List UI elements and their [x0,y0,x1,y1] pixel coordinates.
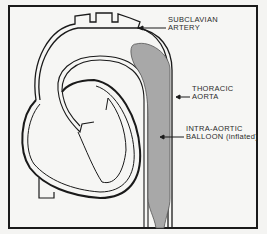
label-line: BALLOON (inflated) [186,133,258,141]
intra-aortic-balloon-label: INTRA-AORTIC BALLOON (inflated) [186,125,258,141]
thoracic-aorta-label: THORACIC AORTA [192,85,234,101]
heart-ventricle-inner [28,86,134,192]
arrow-icon [139,26,143,30]
label-line: ARTERY [168,24,218,32]
vessel-stub [39,178,54,198]
label-line: AORTA [192,93,234,101]
subclavian-artery-label: SUBCLAVIAN ARTERY [168,16,218,32]
arrow-icon [176,95,180,99]
heart-aorta-illustration [0,0,267,234]
